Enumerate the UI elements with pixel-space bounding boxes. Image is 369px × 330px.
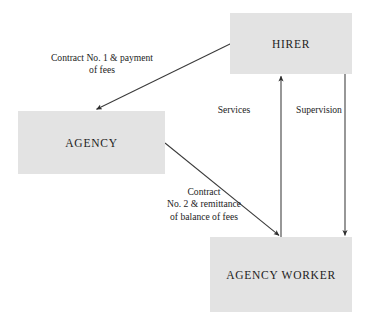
node-agency: AGENCY bbox=[18, 111, 165, 174]
node-hirer: HIRER bbox=[230, 13, 352, 74]
edge-label-contract-two: Contract No. 2 & remittance of balance o… bbox=[141, 186, 267, 223]
edge-label-contract-one: Contract No. 1 & payment of fees bbox=[26, 52, 178, 77]
agency-relationship-diagram: HIRER AGENCY AGENCY WORKER Contract No. … bbox=[0, 0, 369, 330]
node-hirer-label: HIRER bbox=[272, 38, 310, 50]
node-agency-worker: AGENCY WORKER bbox=[210, 237, 352, 312]
node-agency-label: AGENCY bbox=[65, 137, 117, 149]
edge-label-services: Services bbox=[206, 104, 262, 116]
node-agency-worker-label: AGENCY WORKER bbox=[226, 269, 336, 281]
edge-label-supervision: Supervision bbox=[285, 104, 353, 116]
